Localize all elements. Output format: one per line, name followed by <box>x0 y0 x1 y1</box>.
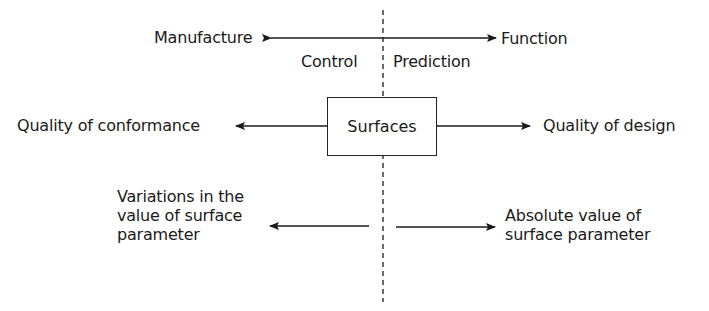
surfaces-label: Surfaces <box>347 117 416 136</box>
absolute-value-label: Absolute value of surface parameter <box>505 206 650 244</box>
variations-label: Variations in the value of surface param… <box>117 187 244 244</box>
manufacture-label: Manufacture <box>154 28 252 47</box>
control-label: Control <box>301 52 357 71</box>
function-label: Function <box>501 29 567 48</box>
prediction-label: Prediction <box>393 52 471 71</box>
surfaces-box: Surfaces <box>327 97 437 156</box>
quality-of-design-label: Quality of design <box>543 116 675 135</box>
quality-of-conformance-label: Quality of conformance <box>17 116 200 135</box>
